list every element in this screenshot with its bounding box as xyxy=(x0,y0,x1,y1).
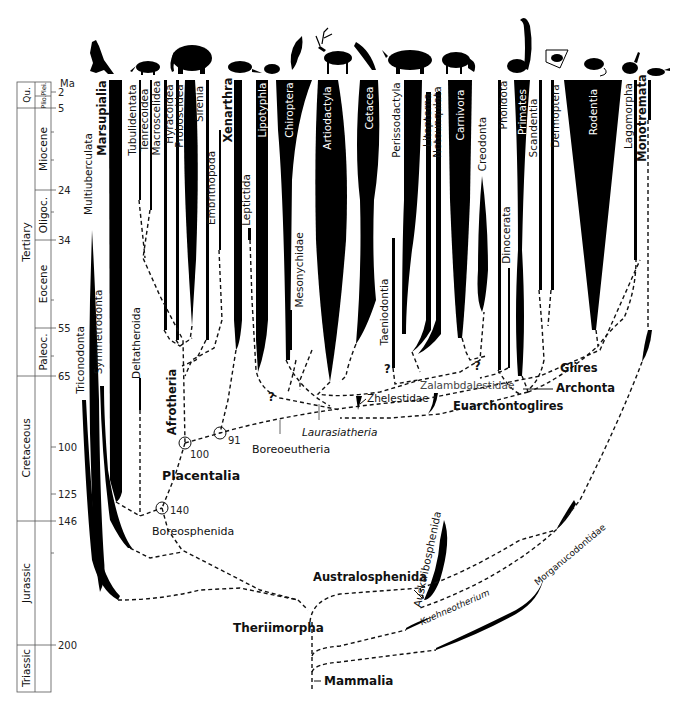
label-monotremata: Monotremata xyxy=(635,74,649,161)
node-age-100: 100 xyxy=(190,449,209,460)
fox-icon xyxy=(442,52,475,74)
rat-icon xyxy=(584,58,606,76)
label-macroscelidea: Macroscelidea xyxy=(150,81,162,156)
bat-icon xyxy=(291,36,303,70)
tick-34: 34 xyxy=(58,235,71,246)
era-cretaceous: Cretaceous xyxy=(20,418,32,477)
label-australosphenida: Australosphenida xyxy=(313,570,427,584)
branch-monotremata-fossil xyxy=(642,330,652,362)
tick-146: 146 xyxy=(58,516,77,527)
lemur-icon xyxy=(507,18,532,73)
label-leptictida: Leptictida xyxy=(240,174,252,226)
branch-leptictida xyxy=(248,228,251,240)
label-afrotheria: Afrotheria xyxy=(165,369,179,435)
label-lipotyphla: Lipotyphla xyxy=(256,83,268,138)
branch-scandentia xyxy=(539,80,542,290)
label-rodentia: Rodentia xyxy=(587,89,599,136)
tick-24: 24 xyxy=(58,185,71,196)
label-mesonychidae: Mesonychidae xyxy=(293,232,305,307)
label-boreosphenida: Boreosphenida xyxy=(152,525,234,538)
label-dermoptera: Dermoptera xyxy=(549,84,561,147)
epoch-eocene: Eocene xyxy=(37,265,49,303)
label-tubulidentata: Tubulidentata xyxy=(126,84,138,157)
geologic-timescale: Ma 2 5 24 34 55 65 100 125 146 200 Qu. T… xyxy=(17,78,77,692)
node-age-91: 91 xyxy=(228,435,241,446)
phylogeny-diagram: Ma 2 5 24 34 55 65 100 125 146 200 Qu. T… xyxy=(0,0,682,710)
branch-creodonta xyxy=(478,176,489,312)
epoch-paleocene: Paleoc. xyxy=(37,333,49,370)
branch-perissodactyla xyxy=(402,80,422,334)
question-mark: ? xyxy=(384,362,391,376)
label-zhelestidae: Zhelestidae xyxy=(367,392,429,404)
label-creodonta: Creodonta xyxy=(476,117,488,172)
label-deltatheroida: Deltatheroida xyxy=(130,307,142,379)
label-morganucodontidae: Morganucodontidae xyxy=(533,522,608,588)
branch-dinocerata xyxy=(508,268,510,368)
branch-embrithopoda xyxy=(219,130,221,250)
dolphin-icon xyxy=(354,42,376,70)
node-age-140: 140 xyxy=(170,505,189,516)
tick-55: 55 xyxy=(58,323,71,334)
clade-labels: Afrotheria Placentalia Boreosphenida Bor… xyxy=(152,361,615,688)
question-mark: ? xyxy=(474,359,481,373)
hedgehog-icon xyxy=(264,64,280,74)
label-perissodactyla: Perissodactyla xyxy=(390,82,402,158)
label-lagomorpha: Lagomorpha xyxy=(622,83,634,149)
label-dinocerata: Dinocerata xyxy=(500,206,512,264)
branch-taeniodontia xyxy=(392,238,395,368)
label-xenarthra: Xenarthra xyxy=(221,77,235,142)
branch-mesonychidae xyxy=(290,310,292,350)
animal-silhouettes xyxy=(90,18,670,76)
tick-200: 200 xyxy=(58,640,77,651)
tick-2: 2 xyxy=(58,87,64,98)
era-tertiary: Tertiary xyxy=(20,222,32,262)
label-theriimorpha: Theriimorpha xyxy=(233,621,324,635)
era-quaternary: Qu. xyxy=(22,87,32,103)
elephant-icon xyxy=(170,45,212,74)
label-embrithopoda: Embrithopoda xyxy=(205,151,217,225)
question-mark: ? xyxy=(268,390,275,404)
label-chiroptera: Chiroptera xyxy=(283,82,295,137)
label-cetacea: Cetacea xyxy=(363,86,375,129)
rabbit-icon xyxy=(622,52,640,74)
label-glires: Glires xyxy=(560,361,598,375)
platypus-icon xyxy=(647,68,670,76)
deer-icon xyxy=(316,28,352,74)
label-symmetrodonta: Symmetrodonta xyxy=(92,290,104,375)
label-archonta: Archonta xyxy=(556,381,615,395)
label-mammalia: Mammalia xyxy=(324,674,393,688)
tick-65: 65 xyxy=(58,371,71,382)
epoch-miocene: Miocene xyxy=(37,127,49,171)
label-boreoeutheria: Boreoeutheria xyxy=(252,443,330,456)
kangaroo-icon xyxy=(90,40,114,74)
branch-zalambdalestidae xyxy=(428,393,438,414)
branch-deltatheroida xyxy=(139,378,141,410)
label-notoungulata: Notounqulata xyxy=(431,86,443,157)
label-triconodonta: Triconodonta xyxy=(74,326,86,395)
tick-5: 5 xyxy=(58,103,64,114)
label-tenrecoidea: Tenrecoidea xyxy=(138,89,150,153)
label-euarchontoglires: Euarchontoglires xyxy=(453,399,564,413)
label-sirenia: Sirenia xyxy=(193,86,205,122)
label-taeniodontia: Taeniodontia xyxy=(378,279,390,347)
label-zalambdalestidae: Zalambdalestidae xyxy=(420,379,514,391)
tick-100: 100 xyxy=(58,442,77,453)
label-multituberculata: Multiuberculata xyxy=(82,133,94,215)
label-proboscidea: Proboscidea xyxy=(173,84,185,147)
label-pholidota: Pholidota xyxy=(497,81,509,130)
colugo-icon xyxy=(546,50,568,68)
tick-125: 125 xyxy=(58,489,77,500)
era-triassic: Triassic xyxy=(20,649,32,688)
label-carnivora: Carnivora xyxy=(454,90,466,141)
aardvark-icon xyxy=(130,61,160,75)
label-placentalia: Placentalia xyxy=(162,468,240,483)
label-marsupialia: Marsupialia xyxy=(95,80,109,156)
branch-marsupialia xyxy=(109,80,122,502)
armadillo-icon xyxy=(228,61,262,73)
rhinoceros-icon xyxy=(382,50,432,74)
label-laurasiatheria: Laurasiatheria xyxy=(302,426,377,438)
epoch-oligocene: Oligoc. xyxy=(37,197,49,233)
era-jurassic: Jurassic xyxy=(20,563,32,604)
label-artiodactyla: Artiodactyla xyxy=(321,86,333,150)
label-scandentia: Scandentia xyxy=(527,99,539,158)
